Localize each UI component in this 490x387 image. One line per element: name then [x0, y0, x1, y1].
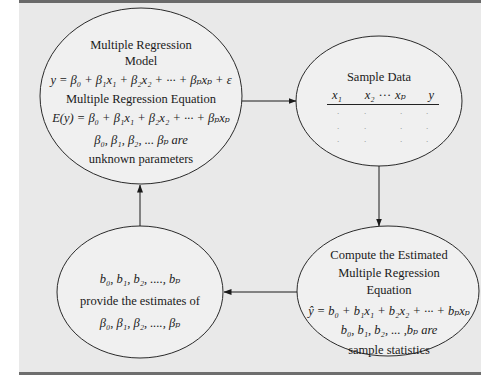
compute-title-line3: Equation [298, 282, 480, 300]
beta-parameters: β₀, β₁, β₂, ...., βₚ [58, 312, 222, 334]
model-title-line2: Model [41, 52, 241, 71]
column-x2: x₂ [365, 87, 375, 103]
parameters-list: β₀, β₁, β₂, ... βₚ are [41, 131, 241, 150]
column-x1: x₁ [332, 87, 342, 103]
column-y: y [428, 87, 434, 103]
equation-formula: E(y) = β₀ + β₁x₁ + β₂x₂ + ··· + βₚxₚ [41, 109, 241, 128]
b-coefficients: b₀, b₁, b₂, ...., bₚ [58, 268, 222, 290]
table-row: . . . . [327, 105, 439, 117]
population-model-text: Multiple Regression Model y = β₀ + β₁x₁ … [41, 36, 241, 169]
parameters-note: unknown parameters [41, 150, 241, 169]
column-xp: xₚ [395, 87, 406, 103]
model-formula: y = β₀ + β₁x₁ + β₂x₂ + ··· + βₚxₚ + ε [41, 71, 241, 90]
table-row: . . . . [327, 133, 439, 145]
compute-equation-text: Compute the Estimated Multiple Regressio… [298, 247, 480, 359]
sample-data-header: x₁ x₂ ··· xₚ y [327, 87, 439, 103]
equation-title: Multiple Regression Equation [41, 90, 241, 109]
estimates-caption: provide the estimates of [58, 290, 222, 312]
estimated-formula: ŷ = b₀ + b₁x₁ + b₂x₂ + ··· + bₚxₚ [298, 303, 480, 321]
sample-data-table: x₁ x₂ ··· xₚ y . . . . . . . . . . . . [327, 87, 439, 145]
table-row: . . . . [327, 120, 439, 132]
compute-title-line1: Compute the Estimated [298, 247, 480, 265]
statistics-note: sample statistics [298, 342, 480, 360]
statistics-list: b₀, b₁, b₂, ... ,bₚ are [298, 322, 480, 340]
column-ellipsis: ··· [379, 87, 392, 103]
compute-title-line2: Multiple Regression [298, 265, 480, 283]
sample-data-title: Sample Data [329, 68, 429, 87]
estimates-text: b₀, b₁, b₂, ...., bₚ provide the estimat… [58, 268, 222, 334]
